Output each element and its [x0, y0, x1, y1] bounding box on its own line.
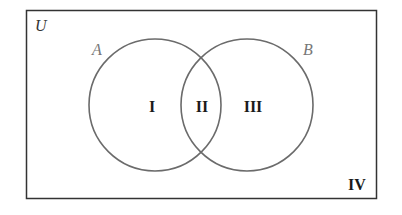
region-iii-label: III	[244, 98, 263, 115]
region-ii-label: II	[196, 98, 208, 115]
region-i-label: I	[149, 98, 155, 115]
set-a-label: A	[91, 41, 102, 58]
venn-diagram: U A B I II III IV	[0, 0, 402, 215]
set-b-label: B	[303, 41, 313, 58]
region-iv-label: IV	[348, 176, 366, 193]
universe-label: U	[35, 17, 48, 34]
